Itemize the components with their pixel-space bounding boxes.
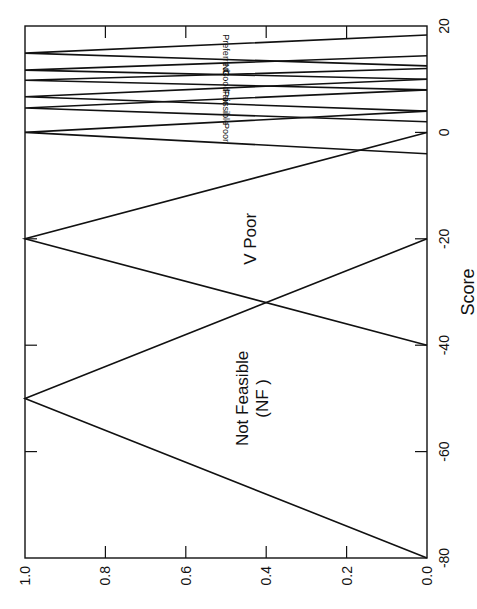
membership-triangle	[25, 132, 427, 345]
score-axis-label: Score	[458, 268, 477, 315]
score-tick-label: -80	[436, 548, 452, 568]
series-label: Poor	[221, 123, 231, 142]
score-tick-label: 20	[436, 18, 452, 34]
membership-tick-label: 0.4	[258, 566, 274, 586]
score-tick-label: -40	[436, 335, 452, 355]
membership-tick-label: 0.0	[419, 566, 435, 586]
series-label: (NF )	[253, 379, 272, 418]
score-tick-label: 0	[436, 128, 452, 136]
score-tick-label: -60	[436, 441, 452, 461]
series-label: Preferred	[221, 34, 231, 72]
series-label: Fair	[221, 89, 231, 105]
membership-tick-label: 0.6	[178, 566, 194, 586]
membership-tick-label: 0.2	[339, 566, 355, 586]
membership-tick-label: 1.0	[17, 566, 33, 586]
membership-tick-label: 0.8	[97, 566, 113, 586]
membership-triangle	[25, 239, 427, 558]
score-tick-label: -20	[436, 228, 452, 248]
series-label: Not Feasible	[233, 351, 252, 446]
fuzzy-membership-chart: 0.00.20.40.60.81.0-80-60-40-20020ScoreNo…	[0, 0, 477, 609]
series-label: V Poor	[241, 212, 260, 264]
plot-area: 0.00.20.40.60.81.0-80-60-40-20020ScoreNo…	[17, 18, 477, 585]
